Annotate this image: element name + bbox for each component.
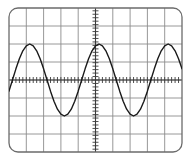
oscilloscope-display: Oscilloscope Display sine [0, 0, 191, 161]
oscilloscope-canvas [0, 0, 191, 161]
